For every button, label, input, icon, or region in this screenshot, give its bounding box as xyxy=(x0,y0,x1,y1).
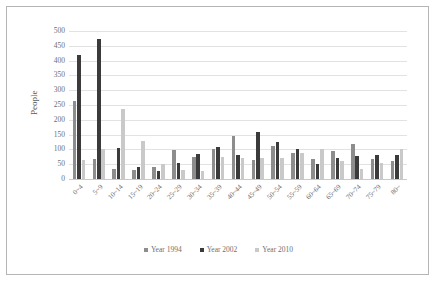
x-axis-label-cell: 15~19 xyxy=(129,181,149,221)
legend-swatch-icon xyxy=(144,248,148,252)
x-axis-tick-label: 55~59 xyxy=(285,183,303,201)
x-axis-label-cell: 65~69 xyxy=(327,181,347,221)
bar xyxy=(141,141,145,179)
bar-group xyxy=(89,31,109,179)
bar xyxy=(177,163,181,179)
bar xyxy=(360,169,364,179)
bar-group xyxy=(248,31,268,179)
bar xyxy=(181,170,185,179)
bar xyxy=(260,158,264,179)
bar xyxy=(112,169,116,179)
x-axis-line xyxy=(69,179,407,180)
legend-swatch-icon xyxy=(255,248,259,252)
bar xyxy=(161,164,165,179)
bar xyxy=(331,151,335,179)
bar xyxy=(355,156,359,179)
bar xyxy=(73,101,77,179)
legend-item[interactable]: Year 2002 xyxy=(200,245,238,254)
bar xyxy=(101,149,105,179)
bar-group xyxy=(188,31,208,179)
bar-group xyxy=(327,31,347,179)
x-axis-label-cell: 55~59 xyxy=(288,181,308,221)
bar-group xyxy=(129,31,149,179)
x-axis-label-cell: 25~29 xyxy=(168,181,188,221)
bar xyxy=(291,153,295,179)
bar-group xyxy=(387,31,407,179)
chart-frame: People 500450400350300250200150100500 0~… xyxy=(6,6,429,275)
bar-group xyxy=(308,31,328,179)
y-axis-tick-label: 0 xyxy=(11,175,65,183)
legend-item[interactable]: Year 2010 xyxy=(255,245,293,254)
bar xyxy=(276,142,280,179)
x-axis-label-cell: 70~74 xyxy=(347,181,367,221)
x-axis-tick-label: 5~9 xyxy=(91,183,104,196)
bar xyxy=(375,155,379,179)
bar xyxy=(316,164,320,179)
x-axis-tick-label: 30~34 xyxy=(186,183,204,201)
bar xyxy=(137,167,141,179)
bar-group xyxy=(69,31,89,179)
x-axis-label-cell: 10~14 xyxy=(109,181,129,221)
bar xyxy=(121,109,125,179)
x-axis-label-cell: 30~34 xyxy=(188,181,208,221)
bar xyxy=(152,167,156,179)
bar xyxy=(236,155,240,179)
bar-group xyxy=(168,31,188,179)
bar xyxy=(256,132,260,179)
y-axis-tick-label: 100 xyxy=(11,146,65,154)
bar xyxy=(93,159,97,179)
x-axis-tick-label: 70~74 xyxy=(345,183,363,201)
x-axis-label-cell: 45~49 xyxy=(248,181,268,221)
y-axis-tick-label: 200 xyxy=(11,116,65,124)
bar xyxy=(77,55,81,179)
x-axis-tick-label: 0~4 xyxy=(71,183,84,196)
bar xyxy=(380,163,384,179)
bar xyxy=(232,136,236,179)
bar xyxy=(221,157,225,179)
bar xyxy=(201,171,205,179)
bar xyxy=(351,144,355,179)
bar-group xyxy=(288,31,308,179)
x-axis-tick-label: 60~64 xyxy=(305,183,323,201)
y-axis-ticks: 500450400350300250200150100500 xyxy=(7,31,65,179)
bar xyxy=(196,154,200,179)
bar xyxy=(371,159,375,179)
x-axis-tick-label: 80~ xyxy=(389,183,402,196)
x-axis-tick-label: 75~79 xyxy=(364,183,382,201)
x-axis-label-cell: 0~4 xyxy=(69,181,89,221)
y-axis-tick-label: 50 xyxy=(11,160,65,168)
x-axis-tick-label: 65~69 xyxy=(325,183,343,201)
chart-legend: Year 1994Year 2002Year 2010 xyxy=(7,245,430,254)
bar xyxy=(400,149,404,179)
bar-group xyxy=(109,31,129,179)
bar xyxy=(132,170,136,179)
bar xyxy=(212,149,216,179)
legend-item[interactable]: Year 1994 xyxy=(144,245,182,254)
y-axis-tick-label: 450 xyxy=(11,42,65,50)
y-axis-tick-label: 250 xyxy=(11,101,65,109)
y-axis-tick-label: 300 xyxy=(11,86,65,94)
bar xyxy=(395,155,399,179)
legend-label: Year 2010 xyxy=(262,245,293,254)
bar xyxy=(172,150,176,179)
bar xyxy=(192,157,196,179)
x-axis-tick-label: 35~39 xyxy=(205,183,223,201)
legend-swatch-icon xyxy=(200,248,204,252)
x-axis-tick-label: 15~19 xyxy=(126,183,144,201)
bar-group xyxy=(367,31,387,179)
bar xyxy=(82,160,86,179)
bar xyxy=(280,158,284,179)
bar xyxy=(157,171,161,179)
x-axis-tick-label: 10~14 xyxy=(106,183,124,201)
bar xyxy=(311,159,315,179)
bar xyxy=(117,148,121,179)
bar xyxy=(252,160,256,179)
y-axis-tick-label: 400 xyxy=(11,57,65,65)
x-axis-tick-label: 20~24 xyxy=(146,183,164,201)
bar-group xyxy=(208,31,228,179)
x-axis-label-cell: 80~ xyxy=(387,181,407,221)
bar xyxy=(320,149,324,179)
bar-group xyxy=(228,31,248,179)
legend-label: Year 2002 xyxy=(207,245,238,254)
y-axis-tick-label: 500 xyxy=(11,27,65,35)
